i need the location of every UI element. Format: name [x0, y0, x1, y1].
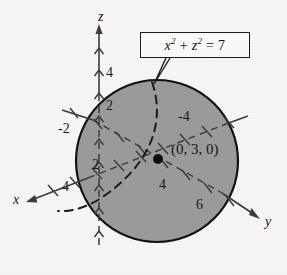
tick-label-y-4: 4: [159, 178, 166, 192]
tick-label-z-2: 2: [106, 99, 113, 113]
y-axis-outside-negative: [62, 110, 93, 120]
z-axis-arrow-icon: [95, 24, 102, 34]
eq-exp-2: 2: [197, 36, 202, 46]
eq-equals: =: [206, 38, 214, 53]
equation-callout-text: x2 + z2 = 7: [165, 36, 226, 54]
point-label: (0, 3, 0): [171, 142, 219, 157]
eq-operator: +: [180, 38, 188, 53]
figure-sphere-trace-diagram: x2 + z2 = 7 z x y 4 2 -4 -2 2 4 4 6 (0, …: [0, 0, 287, 275]
tick-label-x-negative-4: -4: [178, 110, 190, 124]
tick-label-z-4: 4: [106, 66, 113, 80]
eq-exp-1: 2: [171, 36, 176, 46]
x-axis-label: x: [13, 193, 19, 207]
tick-label-x-2: 2: [92, 158, 99, 172]
x-axis-arrow-icon: [26, 195, 38, 203]
point-marker-dot: [153, 154, 163, 164]
tick-label-y-negative-2: -2: [58, 122, 70, 136]
eq-rhs: 7: [218, 38, 225, 53]
tick-label-x-4: 4: [62, 180, 69, 194]
y-axis-label: y: [265, 215, 271, 229]
equation-callout-box: x2 + z2 = 7: [140, 32, 250, 58]
tick-label-y-6: 6: [196, 198, 203, 212]
y-axis-arrow-icon: [249, 208, 260, 219]
z-axis-label: z: [98, 10, 103, 24]
